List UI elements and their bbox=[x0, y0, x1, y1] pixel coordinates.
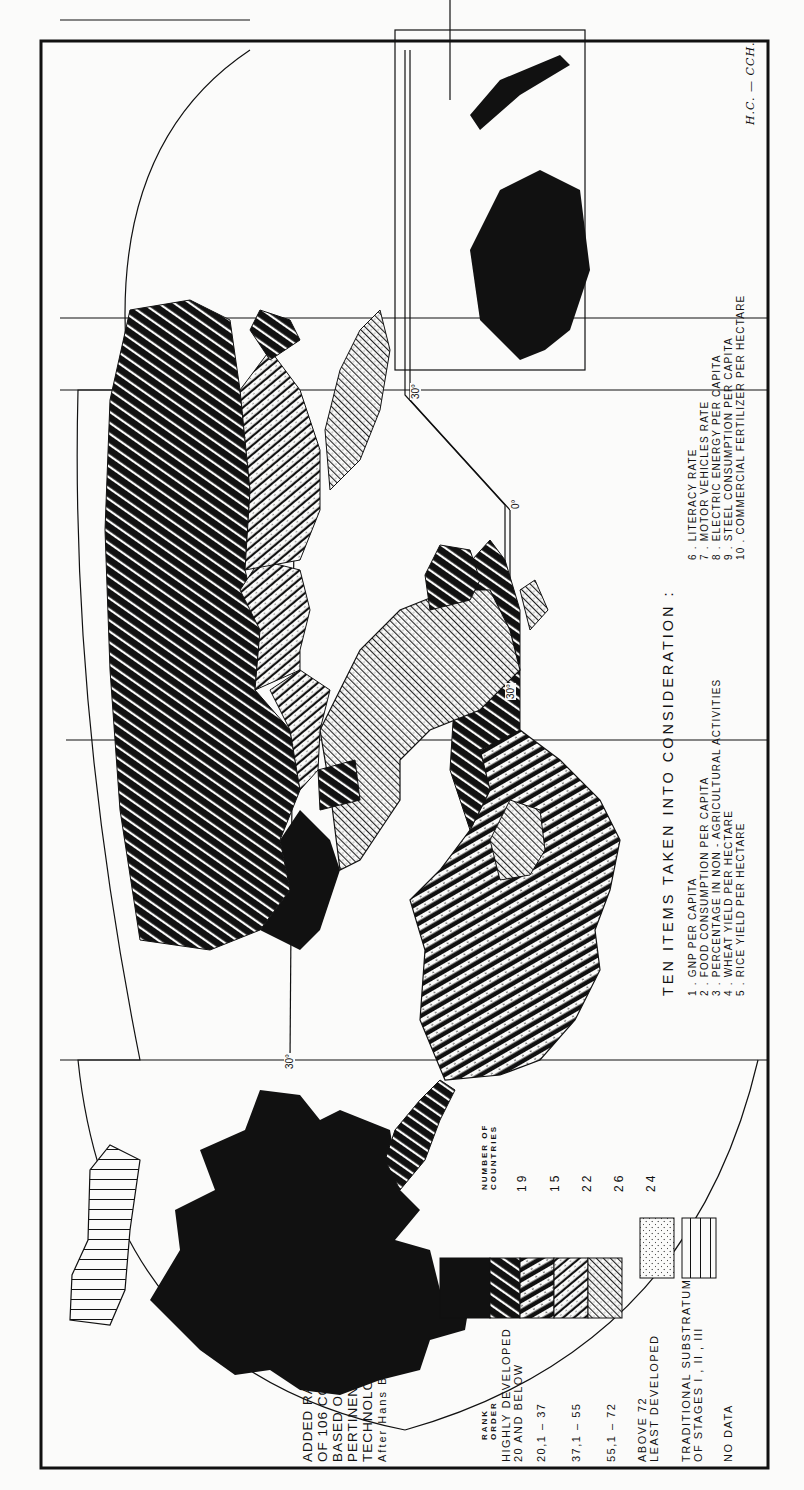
lat-label-0: 0° bbox=[510, 498, 521, 510]
map-author: After Hans Bobek bbox=[375, 1167, 390, 1462]
item-9: 9 . STEEL CONSUMPTION PER CAPITA bbox=[724, 337, 734, 560]
region-china bbox=[240, 350, 320, 570]
legend-no-data: NO DATA bbox=[722, 1404, 734, 1462]
lat-label-30-n: 30° bbox=[410, 383, 421, 400]
item-6: 6 . LITERACY RATE bbox=[688, 448, 698, 560]
legend-class-37-55: 37,1 – 55 bbox=[570, 1403, 582, 1462]
item-4: 4 . WHEAT YIELD PER HECTARE bbox=[724, 810, 734, 996]
legend-class-highly-developed: HIGHLY DEVELOPED 20 AND BELOW bbox=[500, 1328, 524, 1462]
item-8: 8 . ELECTRIC ENERGY PER CAPITA bbox=[712, 354, 722, 560]
item-1: 1 . GNP PER CAPITA bbox=[688, 878, 698, 997]
region-indonesia bbox=[325, 310, 390, 490]
legend-count-20-37: 15 bbox=[548, 1173, 562, 1192]
lat-label-30-w: 30° bbox=[284, 1053, 295, 1070]
legend-traditional-substratum: TRADITIONAL SUBSTRATUM OF STAGES I , II … bbox=[680, 1279, 704, 1462]
item-3: 3 . PERCENTAGE IN NON - AGRICULTURAL ACT… bbox=[712, 679, 722, 996]
item-2: 2 . FOOD CONSUMPTION PER CAPITA bbox=[700, 777, 710, 996]
legend-count-header: NUMBER OF COUNTRIES bbox=[480, 1124, 498, 1190]
legend-class-least-developed: ABOVE 72 LEAST DEVELOPED bbox=[636, 1335, 660, 1462]
region-madagascar bbox=[520, 580, 548, 630]
item-10: 10 . COMMERCIAL FERTILIZER PER HECTARE bbox=[736, 295, 746, 560]
region-greenland bbox=[70, 1145, 140, 1325]
legend-count-least: 24 bbox=[644, 1173, 658, 1192]
legend-count-55-72: 26 bbox=[612, 1173, 626, 1192]
rotated-map-sheet: 30° 0° 30° 30° ADDED RANK ORDERS OF 106 … bbox=[0, 0, 804, 1490]
item-7: 7 . MOTOR VEHICLES RATE bbox=[700, 401, 710, 561]
items-title: TEN ITEMS TAKEN INTO CONSIDERATION : bbox=[660, 589, 676, 996]
legend-class-55-72: 55,1 – 72 bbox=[605, 1403, 617, 1462]
legend-count-37-55: 22 bbox=[580, 1173, 594, 1192]
legend-swatches bbox=[440, 1218, 716, 1318]
item-5: 5 . RICE YIELD PER HECTARE bbox=[736, 822, 746, 996]
legend-class-20-37: 20,1 – 37 bbox=[535, 1403, 547, 1462]
author-credit: H.C. — CCH. bbox=[744, 41, 757, 125]
map-title: ADDED RANK ORDERS OF 106 COUNTRIES BASED… bbox=[300, 1167, 390, 1462]
legend-count-highly: 19 bbox=[515, 1173, 529, 1192]
region-australia bbox=[470, 170, 590, 360]
legend-rank-order-header: RANK ORDER bbox=[480, 1401, 498, 1440]
region-south-america bbox=[410, 730, 620, 1080]
world-map bbox=[0, 0, 804, 1490]
lat-label-30-s: 30° bbox=[505, 683, 516, 700]
region-new-zealand bbox=[470, 55, 570, 130]
region-central-america bbox=[385, 1080, 455, 1190]
